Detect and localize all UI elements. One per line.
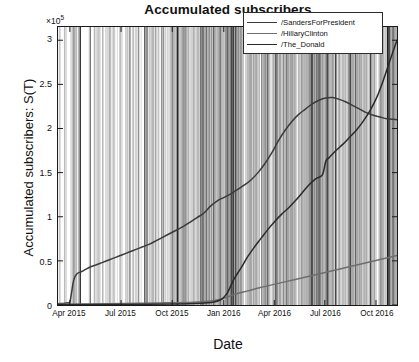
legend-label-hillary: /HillaryClinton bbox=[281, 29, 328, 38]
event-vertical-lines bbox=[59, 27, 397, 305]
x-tick-label: Apr 2016 bbox=[258, 309, 291, 318]
x-tick-label: Jul 2015 bbox=[105, 309, 136, 318]
x-axis-label: Date bbox=[57, 336, 399, 352]
legend-item[interactable]: /SandersForPresident bbox=[247, 17, 378, 27]
x-tick-label: Oct 2015 bbox=[155, 309, 188, 318]
legend-item[interactable]: /HillaryClinton bbox=[247, 28, 378, 38]
y-tick-label: 3 bbox=[47, 34, 52, 44]
y-multiplier-base: ×10 bbox=[46, 16, 60, 26]
legend-swatch-sanders bbox=[247, 22, 277, 23]
y-tick-label: 0 bbox=[47, 301, 52, 311]
plot-canvas bbox=[58, 27, 397, 305]
legend-label-donald: /The_Donald bbox=[281, 40, 324, 49]
chart-figure: Accumulated subscribers Accumulated subs… bbox=[0, 0, 419, 362]
y-multiplier-exponent: 5 bbox=[60, 14, 64, 21]
y-tick-label: 1 bbox=[47, 212, 52, 222]
x-tick-label: Apr 2015 bbox=[52, 309, 85, 318]
y-axis-multiplier: ×105 bbox=[46, 14, 64, 26]
x-tick-label: Jan 2016 bbox=[207, 309, 241, 318]
legend-swatch-donald bbox=[247, 44, 277, 45]
legend-label-sanders: /SandersForPresident bbox=[281, 18, 355, 27]
y-tick-label: 2 bbox=[47, 123, 52, 133]
legend-swatch-hillary bbox=[247, 33, 277, 34]
plot-area bbox=[57, 26, 398, 306]
y-axis-label: Accumulated subscribers: S(T) bbox=[21, 23, 36, 313]
chart-legend[interactable]: /SandersForPresident /HillaryClinton /Th… bbox=[243, 12, 383, 54]
legend-item[interactable]: /The_Donald bbox=[247, 39, 378, 49]
y-tick-label: 0.5 bbox=[39, 257, 52, 267]
x-tick-label: Jul 2016 bbox=[310, 309, 341, 318]
y-tick-label: 1.5 bbox=[39, 168, 52, 178]
x-tick-label: Oct 2016 bbox=[360, 309, 393, 318]
y-tick-label: 2.5 bbox=[39, 79, 52, 89]
